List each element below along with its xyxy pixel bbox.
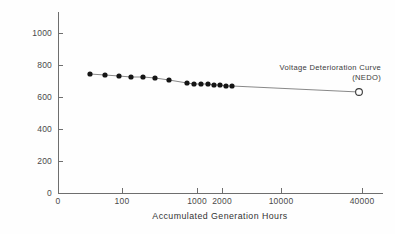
data-point xyxy=(166,77,171,82)
voltage-deterioration-chart: 02004006008001000 0100100020001000040000… xyxy=(0,0,395,234)
y-tick-label: 0 xyxy=(47,188,52,198)
x-axis-title: Accumulated Generation Hours xyxy=(152,211,287,221)
x-tick-label: 1000 xyxy=(187,196,207,206)
data-point xyxy=(184,80,189,85)
x-tick-label: 100 xyxy=(115,196,130,206)
data-point xyxy=(152,75,157,80)
data-point xyxy=(102,72,107,77)
x-tick-label: 40000 xyxy=(350,196,375,206)
x-tick-label: 0 xyxy=(56,196,61,206)
x-axis-ticks: 0100100020001000040000 xyxy=(56,188,375,206)
data-point xyxy=(191,81,196,86)
annotation-line-2: (NEDO) xyxy=(352,73,381,82)
data-series-group xyxy=(87,71,362,95)
data-point xyxy=(116,73,121,78)
y-tick-label: 200 xyxy=(37,156,52,166)
y-tick-label: 1000 xyxy=(32,28,52,38)
data-point xyxy=(198,81,203,86)
data-point xyxy=(229,83,234,88)
data-point xyxy=(128,74,133,79)
x-tick-label: 10000 xyxy=(269,196,294,206)
y-tick-label: 800 xyxy=(37,60,52,70)
y-tick-label: 600 xyxy=(37,92,52,102)
data-point xyxy=(211,82,216,87)
y-tick-label: 400 xyxy=(37,124,52,134)
annotation-line-1: Voltage Deterioration Curve xyxy=(280,63,381,72)
x-tick-label: 2000 xyxy=(212,196,232,206)
data-point xyxy=(87,71,92,76)
data-point xyxy=(223,83,228,88)
data-point xyxy=(217,82,222,87)
data-point-endpoint xyxy=(356,89,363,96)
chart-canvas: 02004006008001000 0100100020001000040000… xyxy=(0,0,395,234)
data-point xyxy=(140,74,145,79)
data-point xyxy=(205,81,210,86)
